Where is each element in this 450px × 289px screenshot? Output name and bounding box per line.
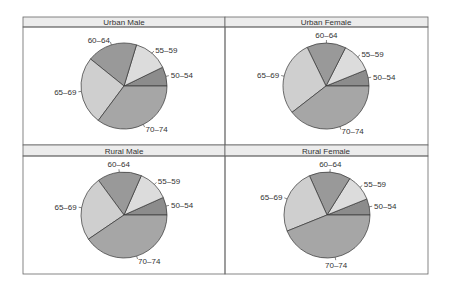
panel-title: Rural Female — [302, 147, 351, 156]
pie-rural-male: 50–5455–5960–6465–6970–74 — [54, 160, 193, 266]
label-tick — [335, 257, 336, 260]
label-tick — [143, 124, 144, 127]
slice-label: 60–64 — [315, 31, 338, 40]
slice-label: 55–59 — [155, 46, 178, 55]
pie-urban-male: 50–5455–5960–6465–6970–74 — [54, 36, 193, 134]
label-tick — [110, 42, 111, 45]
slice-label: 50–54 — [373, 73, 396, 82]
pie-urban-female: 50–5455–5960–6465–6970–74 — [257, 31, 396, 136]
label-tick — [358, 55, 360, 57]
pie-rural-female: 50–5455–5960–6465–6970–74 — [260, 160, 397, 270]
slice-label: 65–69 — [54, 203, 77, 212]
pie-chart-figure: Urban Male 50–5455–5960–6465–6970–74 Urb… — [0, 0, 450, 289]
panel-urban-male: Urban Male 50–5455–5960–6465–6970–74 — [23, 17, 225, 145]
slice-label: 55–59 — [364, 180, 387, 189]
slice-label: 55–59 — [158, 177, 181, 186]
slice-label: 70–74 — [146, 125, 169, 134]
slice-label: 60–64 — [88, 36, 111, 45]
label-tick — [166, 205, 169, 206]
label-tick — [79, 207, 82, 208]
slice-label: 50–54 — [171, 71, 194, 80]
slice-label: 55–59 — [361, 50, 384, 59]
label-tick — [360, 185, 362, 187]
label-tick — [152, 51, 154, 53]
label-tick — [284, 198, 287, 199]
slice-label: 70–74 — [342, 127, 365, 136]
panel-title: Urban Male — [103, 18, 145, 27]
slice-label: 70–74 — [138, 257, 161, 266]
slice-label: 60–64 — [108, 160, 131, 169]
panel-urban-female: Urban Female 50–5455–5960–6465–6970–74 — [225, 17, 428, 145]
panel-rural-male: Rural Male 50–5455–5960–6465–6970–74 — [23, 145, 225, 274]
label-tick — [281, 76, 284, 77]
slice-label: 60–64 — [319, 160, 342, 169]
label-tick — [154, 182, 156, 184]
panel-rural-female: Rural Female 50–5455–5960–6465–6970–74 — [225, 145, 428, 274]
label-tick — [369, 206, 372, 207]
slice-label: 70–74 — [325, 261, 348, 270]
slice-label: 65–69 — [260, 193, 283, 202]
slice-label: 50–54 — [374, 202, 397, 211]
slice-label: 65–69 — [54, 88, 77, 97]
slice-label: 50–54 — [171, 201, 194, 210]
panel-title: Urban Female — [301, 18, 352, 27]
label-tick — [368, 77, 371, 78]
label-tick — [166, 76, 169, 77]
slice-label: 65–69 — [257, 71, 280, 80]
panel-title: Rural Male — [105, 147, 144, 156]
